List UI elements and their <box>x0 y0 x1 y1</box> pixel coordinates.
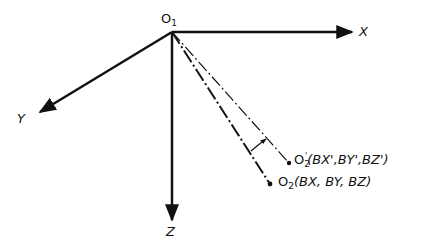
z-axis-label: Z <box>166 225 175 238</box>
origin-base: O <box>161 11 171 26</box>
point-o2-label: O2(BX, BY, BZ) <box>278 175 371 188</box>
point-o2-dot <box>268 182 273 187</box>
y-axis-label: Y <box>17 112 25 125</box>
point-o2-prime-label: O2'(BX',BY',BZ') <box>294 153 389 166</box>
y-axis <box>40 32 172 112</box>
point-o2-base: O <box>278 174 288 189</box>
point-o2-sub: 2 <box>288 181 294 191</box>
origin-label: O1 <box>161 12 177 25</box>
point-o2-prime-sup: ' <box>305 152 307 161</box>
point-o2-prime-base: O <box>294 152 304 167</box>
x-axis-label: X <box>359 25 368 38</box>
origin-sub: 1 <box>171 18 177 28</box>
line-to-o2 <box>172 32 270 184</box>
angle-arc <box>251 139 266 151</box>
point-o2-prime-coords: (BX',BY',BZ') <box>307 152 388 167</box>
point-o2-prime-dot <box>287 161 291 165</box>
point-o2-coords: (BX, BY, BZ) <box>294 174 371 189</box>
line-to-o2-prime <box>172 32 289 163</box>
